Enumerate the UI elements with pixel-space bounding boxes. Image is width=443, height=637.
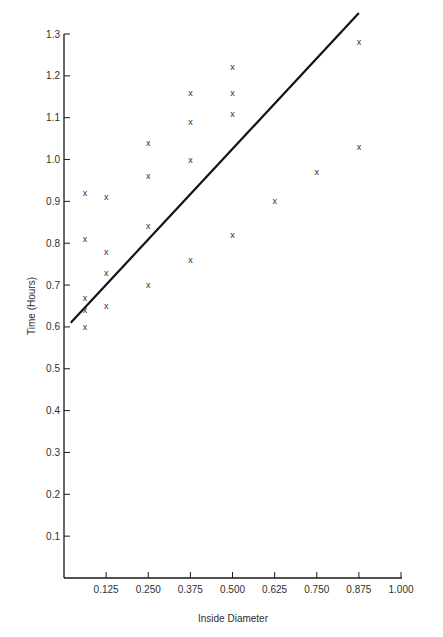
x-marker-icon: x bbox=[357, 142, 362, 152]
x-marker-icon: x bbox=[146, 171, 151, 181]
x-tick-label: 0.375 bbox=[178, 584, 203, 595]
x-marker-icon: x bbox=[83, 293, 88, 303]
y-tick-label: 0.3 bbox=[46, 447, 60, 458]
data-points: xxxxxxxxxxxxxxxxxxxxxxxxx bbox=[83, 37, 362, 332]
scatter-chart: 0.10.20.30.40.50.60.70.80.91.01.11.21.3 … bbox=[0, 0, 443, 637]
x-marker-icon: x bbox=[188, 117, 193, 127]
y-tick-label: 1.2 bbox=[46, 70, 60, 81]
x-marker-icon: x bbox=[104, 247, 109, 257]
x-tick-label: 0.750 bbox=[304, 584, 329, 595]
x-marker-icon: x bbox=[188, 155, 193, 165]
x-marker-icon: x bbox=[83, 322, 88, 332]
x-tick-label: 1.000 bbox=[388, 584, 413, 595]
x-tick-label: 0.500 bbox=[220, 584, 245, 595]
y-ticks: 0.10.20.30.40.50.60.70.80.91.01.11.21.3 bbox=[46, 29, 70, 542]
y-tick-label: 0.4 bbox=[46, 405, 60, 416]
x-marker-icon: x bbox=[230, 230, 235, 240]
x-marker-icon: x bbox=[315, 167, 320, 177]
x-marker-icon: x bbox=[146, 280, 151, 290]
x-marker-icon: x bbox=[230, 62, 235, 72]
x-tick-label: 0.250 bbox=[136, 584, 161, 595]
x-ticks: 0.1250.2500.3750.5000.6250.7500.8751.000 bbox=[94, 572, 414, 595]
x-tick-label: 0.125 bbox=[94, 584, 119, 595]
x-marker-icon: x bbox=[357, 37, 362, 47]
x-marker-icon: x bbox=[104, 192, 109, 202]
y-tick-label: 1.3 bbox=[46, 29, 60, 40]
x-marker-icon: x bbox=[188, 255, 193, 265]
y-tick-label: 0.6 bbox=[46, 321, 60, 332]
y-tick-label: 0.5 bbox=[46, 363, 60, 374]
x-marker-icon: x bbox=[230, 88, 235, 98]
x-marker-icon: x bbox=[83, 234, 88, 244]
x-tick-label: 0.875 bbox=[346, 584, 371, 595]
x-marker-icon: x bbox=[272, 196, 277, 206]
y-tick-label: 0.7 bbox=[46, 280, 60, 291]
y-tick-label: 0.1 bbox=[46, 531, 60, 542]
x-marker-icon: x bbox=[83, 305, 88, 315]
x-marker-icon: x bbox=[146, 138, 151, 148]
x-marker-icon: x bbox=[83, 188, 88, 198]
y-tick-label: 1.1 bbox=[46, 112, 60, 123]
x-tick-label: 0.625 bbox=[262, 584, 287, 595]
x-marker-icon: x bbox=[188, 88, 193, 98]
y-tick-label: 0.8 bbox=[46, 238, 60, 249]
x-marker-icon: x bbox=[146, 221, 151, 231]
y-tick-label: 0.9 bbox=[46, 196, 60, 207]
y-axis-title: Time (Hours) bbox=[26, 277, 37, 335]
y-tick-label: 1.0 bbox=[46, 154, 60, 165]
y-tick-label: 0.2 bbox=[46, 489, 60, 500]
x-axis-title: Inside Diameter bbox=[198, 613, 269, 624]
x-marker-icon: x bbox=[104, 301, 109, 311]
x-marker-icon: x bbox=[104, 268, 109, 278]
x-marker-icon: x bbox=[230, 109, 235, 119]
